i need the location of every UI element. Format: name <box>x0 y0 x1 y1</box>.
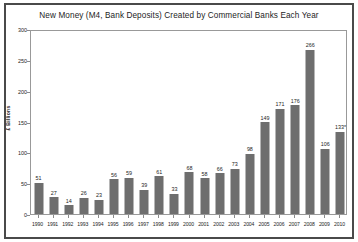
bars-layer: 5127142623565939613368586673981491711762… <box>31 31 346 214</box>
bar[interactable] <box>276 109 285 214</box>
x-tick-label: 2001 <box>198 221 209 227</box>
bar[interactable] <box>110 179 119 214</box>
x-tick-label: 2000 <box>183 221 194 227</box>
x-tick-label: 1990 <box>32 221 43 227</box>
x-tick-mark <box>68 215 69 218</box>
bar-value-label: 66 <box>217 166 223 172</box>
bar[interactable] <box>291 105 300 214</box>
bar[interactable] <box>321 149 330 214</box>
x-tick-label: 1991 <box>47 221 58 227</box>
bar-value-label: 27 <box>51 190 57 196</box>
bar-value-label: 176 <box>291 98 300 104</box>
bar[interactable] <box>140 190 149 214</box>
bar[interactable] <box>79 198 88 214</box>
x-tick-mark <box>158 215 159 218</box>
bar-value-label: 14 <box>66 198 72 204</box>
bar-group[interactable]: 61 <box>152 31 167 214</box>
bar[interactable] <box>64 205 73 214</box>
bar-group[interactable]: 149 <box>257 31 272 214</box>
bar-value-label: 58 <box>202 171 208 177</box>
bar[interactable] <box>94 200 103 214</box>
bar-group[interactable]: 27 <box>46 31 61 214</box>
y-tick-label: 250 <box>18 58 27 64</box>
bar-value-label: 51 <box>36 175 42 181</box>
x-tick-mark <box>53 215 54 218</box>
bar[interactable] <box>260 122 269 214</box>
x-tick-label: 2006 <box>274 221 285 227</box>
bar-group[interactable]: 73 <box>227 31 242 214</box>
x-tick-mark <box>204 215 205 218</box>
x-tick-label: 2007 <box>289 221 300 227</box>
bar[interactable] <box>155 176 164 214</box>
y-axis-label: £ Billions <box>5 105 11 130</box>
bar-group[interactable]: 98 <box>242 31 257 214</box>
y-tick-label: 100 <box>18 150 27 156</box>
bar[interactable] <box>306 50 315 214</box>
x-tick-mark <box>294 215 295 218</box>
bar-value-label: 33 <box>171 186 177 192</box>
bar[interactable] <box>230 169 239 214</box>
x-tick-mark <box>324 215 325 218</box>
x-tick-mark <box>249 215 250 218</box>
bar-value-label: 59 <box>126 170 132 176</box>
bar-group[interactable]: 176 <box>288 31 303 214</box>
x-tick-label: 2004 <box>243 221 254 227</box>
bar[interactable] <box>336 132 345 214</box>
bar-group[interactable]: 14 <box>61 31 76 214</box>
x-tick-mark <box>98 215 99 218</box>
bar-group[interactable]: 51 <box>31 31 46 214</box>
chart-figure: New Money (M4, Bank Deposits) Created by… <box>0 0 358 242</box>
x-tick-label: 1999 <box>168 221 179 227</box>
x-tick-label: 2002 <box>213 221 224 227</box>
bar[interactable] <box>170 194 179 214</box>
x-tick-label: 2003 <box>228 221 239 227</box>
x-tick-mark <box>83 215 84 218</box>
x-tick-label: 1996 <box>123 221 134 227</box>
bar[interactable] <box>185 172 194 214</box>
bar-group[interactable]: 66 <box>212 31 227 214</box>
bar-value-label: 39 <box>141 182 147 188</box>
bar[interactable] <box>245 154 254 214</box>
bar-value-label: 149 <box>260 115 269 121</box>
bar-group[interactable]: 171 <box>273 31 288 214</box>
bar-group[interactable]: 33 <box>167 31 182 214</box>
bar-group[interactable]: 133* <box>333 31 348 214</box>
bar-group[interactable]: 68 <box>182 31 197 214</box>
x-tick-label: 1993 <box>77 221 88 227</box>
bar-value-label: 98 <box>247 146 253 152</box>
bar-value-label: 23 <box>96 192 102 198</box>
x-tick-mark <box>173 215 174 218</box>
bar-group[interactable]: 56 <box>106 31 121 214</box>
bar-value-label: 106 <box>321 141 330 147</box>
bar-group[interactable]: 59 <box>122 31 137 214</box>
bar-group[interactable]: 106 <box>318 31 333 214</box>
bar[interactable] <box>49 197 58 214</box>
x-tick-mark <box>143 215 144 218</box>
x-tick-mark <box>189 215 190 218</box>
bar[interactable] <box>125 178 134 214</box>
x-tick-mark <box>339 215 340 218</box>
bar[interactable] <box>215 173 224 214</box>
x-tick-label: 1992 <box>62 221 73 227</box>
bar-value-label: 61 <box>156 169 162 175</box>
bar-value-label: 133* <box>335 124 346 130</box>
bar-group[interactable]: 266 <box>303 31 318 214</box>
plot-area: 5127142623565939613368586673981491711762… <box>30 30 347 215</box>
bar[interactable] <box>200 178 209 214</box>
x-tick-mark <box>234 215 235 218</box>
x-tick-label: 2009 <box>319 221 330 227</box>
bar[interactable] <box>34 183 43 214</box>
x-tick-label: 1998 <box>153 221 164 227</box>
bar-group[interactable]: 58 <box>197 31 212 214</box>
bar-group[interactable]: 23 <box>91 31 106 214</box>
bar-group[interactable]: 39 <box>137 31 152 214</box>
bar-value-label: 73 <box>232 161 238 167</box>
x-tick-label: 1997 <box>138 221 149 227</box>
bar-group[interactable]: 26 <box>76 31 91 214</box>
x-tick-mark <box>264 215 265 218</box>
bar-value-label: 26 <box>81 190 87 196</box>
x-tick-label: 2008 <box>304 221 315 227</box>
y-tick-label: 200 <box>18 89 27 95</box>
x-tick-mark <box>219 215 220 218</box>
x-tick-mark <box>279 215 280 218</box>
